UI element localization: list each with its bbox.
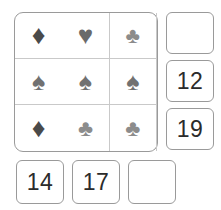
grid-cell-r1c2[interactable]: ♠ (110, 59, 157, 105)
heart-icon: ♥ (78, 20, 93, 51)
grid-cell-r2c1[interactable]: ♣ (62, 105, 109, 151)
diamond-icon: ♦ (32, 20, 46, 51)
spade-icon: ♠ (32, 67, 45, 96)
grid-cell-r1c0[interactable]: ♠ (15, 59, 62, 105)
club-icon: ♣ (125, 115, 140, 142)
grid-cell-r1c1[interactable]: ♠ (62, 59, 109, 105)
club-icon: ♣ (126, 23, 140, 49)
option-box-bottom-2[interactable]: 17 (72, 160, 120, 204)
spade-icon: ♠ (126, 67, 139, 96)
suit-grid: ♦ ♥ ♣ ♠ ♠ ♠ ♦ ♣ ♣ (14, 12, 158, 152)
option-box-bottom-1[interactable]: 14 (16, 160, 64, 204)
grid-cell-r0c1[interactable]: ♥ (62, 13, 109, 59)
grid-cell-r0c0[interactable]: ♦ (15, 13, 62, 59)
grid-cell-r2c0[interactable]: ♦ (15, 105, 62, 151)
suit-matrix-puzzle: ♦ ♥ ♣ ♠ ♠ ♠ ♦ ♣ ♣ 12 19 14 17 (0, 0, 221, 210)
option-box-right-1[interactable] (166, 12, 214, 54)
grid-cell-r0c2[interactable]: ♣ (110, 13, 157, 59)
option-box-right-2[interactable]: 12 (166, 60, 214, 102)
diamond-icon: ♦ (32, 113, 46, 144)
spade-icon: ♠ (79, 67, 92, 96)
club-icon: ♣ (78, 115, 93, 142)
option-box-right-3[interactable]: 19 (166, 108, 214, 150)
option-box-bottom-3[interactable] (128, 160, 176, 204)
grid-cell-r2c2[interactable]: ♣ (110, 105, 157, 151)
